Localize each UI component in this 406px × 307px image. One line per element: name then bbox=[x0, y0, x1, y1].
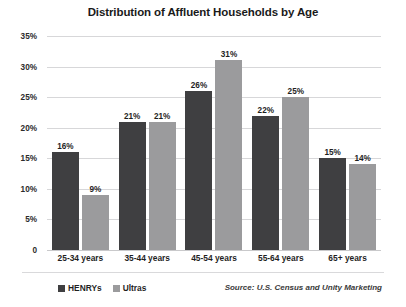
bar-rect bbox=[82, 195, 109, 250]
x-axis-label-3: 55-64 years bbox=[247, 253, 314, 269]
y-axis-tick-30: 30% bbox=[0, 62, 42, 71]
bar-ultras-2[interactable]: 31% bbox=[215, 36, 242, 250]
chart-legend: HENRYsUltras bbox=[58, 283, 146, 293]
bar-rect bbox=[252, 116, 279, 251]
bar-value-label: 22% bbox=[258, 106, 274, 115]
bar-rect bbox=[185, 91, 212, 250]
bar-value-label: 15% bbox=[324, 148, 340, 157]
bar-group: 16%9% bbox=[47, 36, 114, 250]
bar-ultras-0[interactable]: 9% bbox=[82, 36, 109, 250]
y-axis-tick-35: 35% bbox=[0, 32, 42, 41]
source-note: Source: U.S. Census and Unity Marketing bbox=[225, 283, 382, 292]
bar-rect bbox=[319, 158, 346, 250]
x-axis-label-2: 45-54 years bbox=[181, 253, 248, 269]
bar-value-label: 25% bbox=[288, 87, 304, 96]
bar-rect bbox=[52, 152, 79, 250]
bar-henrys-0[interactable]: 16% bbox=[52, 36, 79, 250]
bar-rect bbox=[119, 122, 146, 250]
chart-container: Distribution of Affluent Households by A… bbox=[0, 0, 406, 307]
chart-title: Distribution of Affluent Households by A… bbox=[0, 6, 406, 18]
y-axis-tick-15: 15% bbox=[0, 154, 42, 163]
y-axis-tick-labels: 05%10%15%20%25%30%35% bbox=[0, 36, 42, 250]
x-axis-category-labels: 25-34 years35-44 years45-54 years55-64 y… bbox=[47, 253, 381, 269]
bar-ultras-3[interactable]: 25% bbox=[282, 36, 309, 250]
y-axis-tick-20: 20% bbox=[0, 123, 42, 132]
y-axis-tick-0: 0 bbox=[0, 246, 42, 255]
bar-group: 26%31% bbox=[181, 36, 248, 250]
bar-group: 22%25% bbox=[247, 36, 314, 250]
y-axis-tick-5: 5% bbox=[0, 215, 42, 224]
y-axis-tick-10: 10% bbox=[0, 184, 42, 193]
bar-rect bbox=[282, 97, 309, 250]
plot-area: 16%9%21%21%26%31%22%25%15%14% bbox=[47, 36, 381, 250]
bar-henrys-4[interactable]: 15% bbox=[319, 36, 346, 250]
bar-value-label: 31% bbox=[221, 50, 237, 59]
bar-rect bbox=[215, 60, 242, 250]
bar-value-label: 21% bbox=[124, 112, 140, 121]
legend-label: HENRYs bbox=[68, 283, 102, 293]
bar-value-label: 16% bbox=[57, 142, 73, 151]
bar-value-label: 14% bbox=[354, 154, 370, 163]
footer-divider bbox=[22, 272, 384, 273]
bar-henrys-2[interactable]: 26% bbox=[185, 36, 212, 250]
bar-groups: 16%9%21%21%26%31%22%25%15%14% bbox=[47, 36, 381, 250]
bar-value-label: 21% bbox=[154, 112, 170, 121]
legend-item-ultras[interactable]: Ultras bbox=[113, 283, 147, 293]
y-axis-tick-25: 25% bbox=[0, 93, 42, 102]
bar-henrys-3[interactable]: 22% bbox=[252, 36, 279, 250]
legend-swatch-icon bbox=[113, 285, 120, 292]
bar-rect bbox=[149, 122, 176, 250]
legend-item-henrys[interactable]: HENRYs bbox=[58, 283, 102, 293]
legend-swatch-icon bbox=[58, 285, 65, 292]
x-axis-label-0: 25-34 years bbox=[47, 253, 114, 269]
bar-group: 15%14% bbox=[314, 36, 381, 250]
bar-ultras-4[interactable]: 14% bbox=[349, 36, 376, 250]
axis-baseline bbox=[47, 250, 381, 251]
x-axis-label-1: 35-44 years bbox=[114, 253, 181, 269]
bar-group: 21%21% bbox=[114, 36, 181, 250]
legend-label: Ultras bbox=[123, 283, 147, 293]
bar-henrys-1[interactable]: 21% bbox=[119, 36, 146, 250]
x-axis-label-4: 65+ years bbox=[314, 253, 381, 269]
bar-value-label: 26% bbox=[191, 81, 207, 90]
bar-value-label: 9% bbox=[89, 185, 101, 194]
bar-rect bbox=[349, 164, 376, 250]
bar-ultras-1[interactable]: 21% bbox=[149, 36, 176, 250]
